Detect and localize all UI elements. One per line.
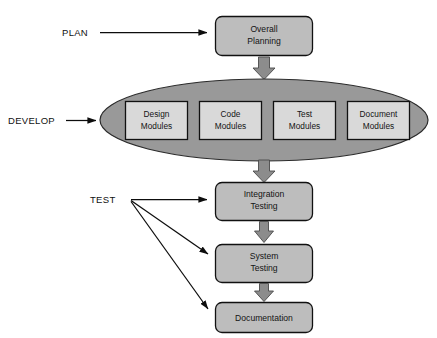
lifecycle-diagram: PLAN Overall Planning DEVELOP Design Mod… [0, 0, 437, 338]
module-design-modules-line-2: Modules [141, 121, 172, 131]
diagram-canvas: PLAN Overall Planning DEVELOP Design Mod… [0, 0, 437, 338]
node-integration-testing-line-2: Testing [250, 201, 277, 211]
module-document-modules-line-1: Document [360, 109, 399, 119]
module-document-modules-line-2: Modules [363, 121, 394, 131]
stage-label-develop: DEVELOP [8, 115, 55, 126]
module-test-modules-line-2: Modules [289, 121, 320, 131]
node-system-testing-line-2: Testing [250, 263, 277, 273]
module-code-modules-line-2: Modules [215, 121, 246, 131]
node-documentation-line-1: Documentation [235, 313, 293, 323]
node-system-testing-line-1: System [250, 251, 279, 261]
module-code-modules-line-1: Code [221, 109, 241, 119]
stage-label-plan: PLAN [62, 27, 88, 38]
node-integration-testing-line-1: Integration [244, 189, 285, 199]
stage-label-test: TEST [90, 194, 115, 205]
node-overall-planning-line-2: Planning [247, 36, 281, 46]
node-overall-planning-line-1: Overall [250, 24, 277, 34]
module-test-modules-line-1: Test [297, 109, 313, 119]
module-design-modules-line-1: Design [144, 109, 170, 119]
